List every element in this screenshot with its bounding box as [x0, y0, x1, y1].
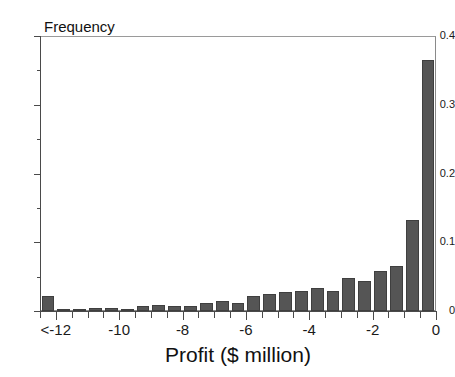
- x-axis-tick: [230, 312, 231, 318]
- histogram-bar: [105, 308, 118, 311]
- x-axis-tick-label: <-12: [41, 321, 71, 338]
- x-axis-major-tick: [436, 312, 437, 320]
- histogram-bar: [342, 278, 355, 311]
- histogram-bar: [263, 294, 276, 311]
- histogram-bar: [247, 296, 260, 311]
- y-axis-tick-label: 0.2: [422, 168, 455, 179]
- x-axis-tick-label: -8: [176, 321, 189, 338]
- histogram-bar: [279, 292, 292, 311]
- x-axis-major-tick: [56, 312, 57, 320]
- histogram-figure: Frequency 00.10.20.30.4 <-12-10-8-6-4-20…: [0, 0, 455, 377]
- y-axis-minor-tick: [37, 139, 40, 140]
- histogram-bar: [89, 308, 102, 311]
- x-axis-tick-label: -6: [239, 321, 252, 338]
- x-axis-tick: [167, 312, 168, 318]
- x-axis-tick: [103, 312, 104, 318]
- x-axis-tick: [357, 312, 358, 318]
- histogram-bar: [184, 306, 197, 311]
- x-axis-major-tick: [183, 312, 184, 320]
- y-axis-tick-label: 0.1: [422, 236, 455, 247]
- x-axis-tick: [420, 312, 421, 318]
- histogram-bar: [121, 309, 134, 311]
- histogram-bar: [406, 220, 419, 311]
- x-axis-line: [40, 311, 437, 312]
- x-axis-tick: [293, 312, 294, 318]
- histogram-bar: [200, 303, 213, 311]
- histogram-bar: [374, 271, 387, 311]
- bar-series: [40, 36, 436, 311]
- x-axis-tick: [278, 312, 279, 318]
- x-axis-tick: [72, 312, 73, 318]
- y-axis-minor-tick: [37, 70, 40, 71]
- x-axis-tick: [341, 312, 342, 318]
- y-axis-minor-tick: [37, 277, 40, 278]
- x-axis-tick-label: 0: [432, 321, 440, 338]
- x-axis-title: Profit ($ million): [40, 343, 436, 367]
- x-axis-major-tick: [246, 312, 247, 320]
- x-axis-tick-label: -4: [303, 321, 316, 338]
- histogram-bar: [42, 296, 55, 311]
- x-axis-tick: [262, 312, 263, 318]
- histogram-bar: [390, 266, 403, 311]
- x-axis-tick: [198, 312, 199, 318]
- y-axis-title: Frequency: [44, 18, 115, 35]
- y-axis-tick-label: 0.3: [422, 99, 455, 110]
- x-axis-major-tick: [309, 312, 310, 320]
- x-axis-major-tick: [119, 312, 120, 320]
- y-axis-minor-tick: [37, 208, 40, 209]
- x-axis-tick: [151, 312, 152, 318]
- x-axis-tick: [214, 312, 215, 318]
- histogram-bar: [152, 305, 165, 311]
- x-axis-tick: [325, 312, 326, 318]
- y-axis-tick: [34, 174, 40, 175]
- x-axis-tick: [88, 312, 89, 318]
- histogram-bar: [168, 306, 181, 311]
- x-axis-tick-label: -2: [366, 321, 379, 338]
- x-axis-tick: [404, 312, 405, 318]
- y-axis-tick: [34, 105, 40, 106]
- y-axis-tick-label: 0.4: [422, 30, 455, 41]
- y-axis-tick-label: 0: [422, 305, 455, 316]
- histogram-bar: [57, 309, 70, 311]
- histogram-bar: [216, 301, 229, 311]
- y-axis-tick: [34, 36, 40, 37]
- histogram-bar: [327, 291, 340, 311]
- x-axis-major-tick: [373, 312, 374, 320]
- histogram-bar: [232, 303, 245, 311]
- histogram-bar: [311, 288, 324, 311]
- histogram-bar: [295, 291, 308, 311]
- histogram-bar: [73, 309, 86, 311]
- x-axis-tick: [135, 312, 136, 318]
- histogram-bar: [358, 281, 371, 311]
- histogram-bar: [422, 60, 435, 311]
- x-axis-tick: [40, 312, 41, 318]
- histogram-bar: [137, 306, 150, 311]
- x-axis-tick: [388, 312, 389, 318]
- y-axis-tick: [34, 242, 40, 243]
- x-axis-tick-label: -10: [108, 321, 130, 338]
